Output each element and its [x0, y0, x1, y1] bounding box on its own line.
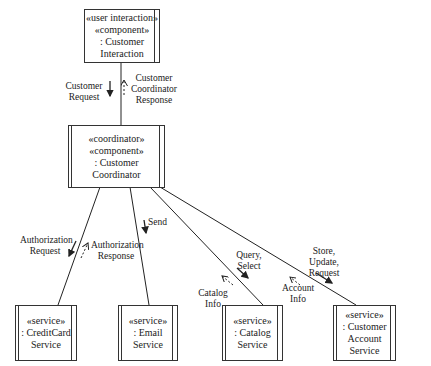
authorization-response-arrow: [81, 243, 88, 258]
node-name-cont: Service: [133, 339, 163, 351]
stereotype-user-interaction: «user interaction»: [86, 12, 158, 24]
stereotype-service: «service»: [27, 315, 65, 327]
stereotype-component: «component»: [89, 145, 143, 157]
creditcard-service[interactable]: «service» : CreditCard Service: [15, 305, 77, 361]
stereotype-service: «service»: [233, 315, 271, 327]
label-account-info: Account Info: [280, 283, 316, 305]
node-name-cont: Service: [238, 339, 268, 351]
email-service[interactable]: «service» : Email Service: [118, 305, 178, 361]
node-name: : Customer: [100, 36, 144, 48]
node-name: : CreditCard: [21, 327, 71, 339]
node-name-cont: Coordinator: [92, 169, 140, 181]
node-name: : Customer: [342, 321, 386, 333]
label-catalog-info: Catalog Info: [196, 288, 230, 310]
stereotype-component: «component»: [95, 24, 149, 36]
catalog-service[interactable]: «service» : Catalog Service: [222, 305, 283, 361]
node-name: : Catalog: [234, 327, 270, 339]
node-name-cont: Account: [348, 333, 382, 345]
customer-coordinator-component[interactable]: «coordinator» «component» : Customer Coo…: [68, 125, 165, 188]
send-arrow: [144, 220, 146, 233]
catalog-info-arrow: [222, 276, 233, 285]
node-name-cont: Service: [31, 339, 61, 351]
customer-account-service[interactable]: «service» : Customer Account Service: [333, 305, 396, 361]
node-name: : Email: [133, 327, 162, 339]
stereotype-service: «service»: [129, 315, 167, 327]
node-name-cont2: Service: [350, 345, 380, 357]
customer-interaction-component[interactable]: «user interaction» «component» : Custome…: [84, 9, 160, 63]
stereotype-coordinator: «coordinator»: [88, 133, 144, 145]
label-coordinator-response: Customer Coordinator Response: [129, 73, 179, 106]
label-authorization-response: Authorization Response: [91, 240, 141, 262]
label-customer-request: Customer Request: [64, 81, 104, 103]
stereotype-service: «service»: [345, 309, 383, 321]
node-name-cont: Interaction: [100, 48, 143, 60]
label-authorization-request: Authorization Request: [20, 235, 70, 257]
label-store-update-request: Store, Update, Request: [306, 246, 342, 279]
label-query-select: Query, Select: [234, 250, 264, 272]
label-send: Send: [148, 217, 172, 228]
node-name: : Customer: [94, 157, 138, 169]
